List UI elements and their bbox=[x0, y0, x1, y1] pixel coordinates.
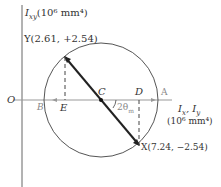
arrow-right-icon bbox=[151, 98, 156, 102]
angle-arc bbox=[113, 100, 116, 108]
origin-label: O bbox=[7, 95, 15, 105]
y-axis-label: Ixy(10⁶ mm⁴) bbox=[25, 8, 88, 21]
angle-label: 2θm bbox=[117, 103, 134, 114]
point-d-label: D bbox=[135, 87, 143, 97]
x-axis-units: (10⁶ mm⁴) bbox=[167, 117, 213, 126]
point-x-label: X(7.24, −2.54) bbox=[141, 143, 208, 152]
mohr-circle-drawing bbox=[0, 0, 221, 187]
center-point bbox=[99, 98, 103, 102]
point-e-label: E bbox=[60, 103, 67, 113]
point-a-label: A bbox=[161, 88, 168, 97]
point-y-label: Y(2.61, +2.54) bbox=[24, 34, 98, 44]
point-b-label: B bbox=[37, 103, 44, 112]
arrow-left-icon bbox=[52, 98, 57, 102]
center-label: C bbox=[98, 87, 106, 97]
